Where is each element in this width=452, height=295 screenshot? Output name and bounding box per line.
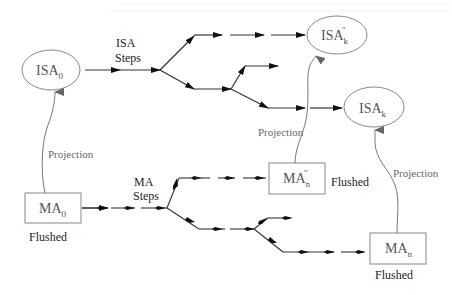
projection-edge-ma0-isa0: Projection (42, 92, 94, 193)
node-isak-double-prime[interactable]: ISAk'' (307, 16, 367, 54)
ma-steps-label-line1: MA (134, 175, 154, 189)
projection-label-2: Projection (258, 126, 304, 138)
isa-ma-projection-diagram: ISA0 ISAk'' ISAk ISA Steps MA0 Flushed (0, 0, 452, 295)
projection-label-3: Projection (393, 167, 439, 179)
background-text-bleed (110, 2, 450, 12)
isa-steps-label-line1: ISA (116, 36, 136, 50)
node-ma0[interactable]: MA0 (25, 193, 81, 223)
ma0-status-flushed: Flushed (29, 230, 67, 244)
isa-steps-label-line2: Steps (115, 51, 141, 65)
node-man-double-prime-label: MAn'' (283, 168, 311, 189)
node-isa0-label: ISA0 (36, 63, 64, 81)
node-man-double-prime[interactable]: MAn'' (269, 163, 325, 194)
node-isak[interactable]: ISAk (344, 87, 404, 127)
node-isak-double-prime-label: ISAk'' (321, 25, 349, 46)
projection-label-1: Projection (48, 148, 94, 160)
node-isa0[interactable]: ISA0 (22, 50, 80, 90)
man-double-prime-status-flushed: Flushed (331, 175, 369, 189)
node-man[interactable]: MAn (370, 233, 426, 264)
ma-steps-label-line2: Steps (133, 189, 159, 203)
projection-edge-manpp-isakpp: Projection (258, 56, 316, 163)
node-isak-label: ISAk (359, 101, 387, 119)
projection-edge-man-isak: Projection (375, 130, 439, 233)
man-status-flushed: Flushed (375, 268, 413, 282)
